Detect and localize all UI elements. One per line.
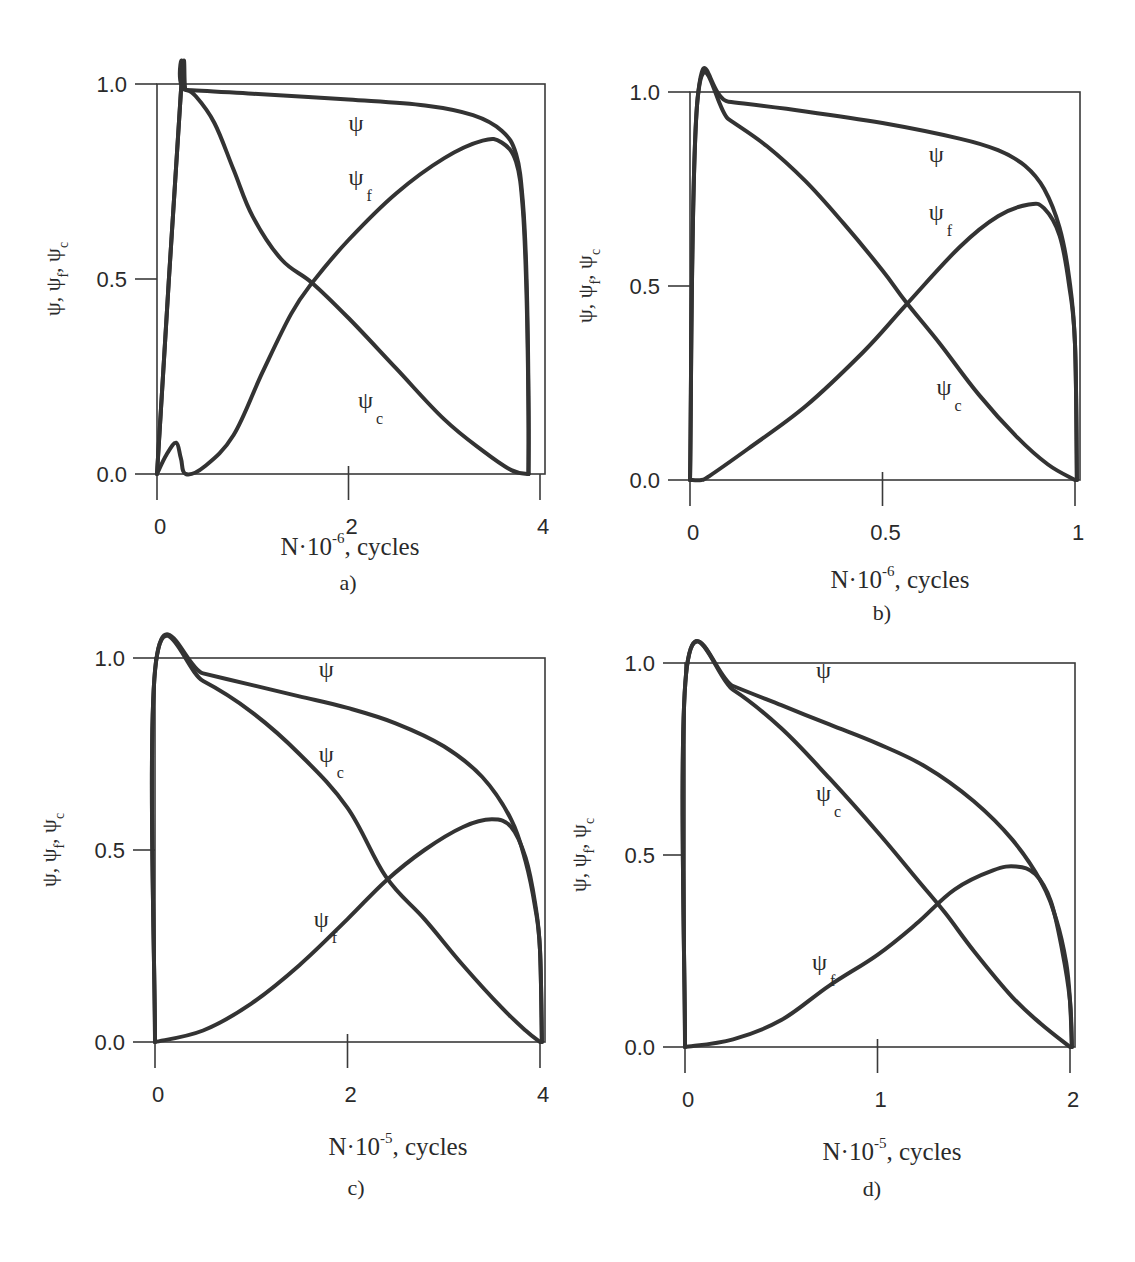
y-tick-label: 1.0 bbox=[624, 651, 655, 676]
y-axis-label: ψ, ψf, ψc bbox=[572, 249, 603, 323]
curve-label-subscript: c bbox=[337, 764, 344, 781]
chart-panel-c: 0.00.51.0024ψψcψfN·10-5, cyclesc)ψ, ψf, … bbox=[36, 634, 549, 1200]
chart-panel-d: 0.00.51.0012ψψcψfN·10-5, cyclesd)ψ, ψf, … bbox=[566, 641, 1079, 1201]
x-tick-label: 0 bbox=[687, 520, 699, 545]
curve-psi-c bbox=[152, 636, 540, 1042]
y-axis-label: ψ, ψf, ψc bbox=[566, 818, 597, 892]
x-tick-label: 4 bbox=[537, 1082, 549, 1107]
curve-psi bbox=[152, 634, 542, 1042]
panel-label: d) bbox=[863, 1176, 881, 1201]
curve-label-subscript: c bbox=[376, 410, 383, 427]
x-tick-label: 4 bbox=[537, 514, 549, 539]
y-tick-label: 0.5 bbox=[96, 267, 127, 292]
panel-label: b) bbox=[873, 600, 891, 625]
y-axis-label: ψ, ψf, ψc bbox=[40, 242, 71, 316]
curve-label-psi: ψ bbox=[319, 656, 334, 682]
y-tick-label: 0.0 bbox=[629, 468, 660, 493]
figure-canvas: 0.00.51.0024ψψfψcN·10-6, cyclesa)ψ, ψf, … bbox=[0, 0, 1135, 1262]
curve-psi-f bbox=[685, 866, 1072, 1047]
curve-label-psi-c: ψ bbox=[319, 741, 334, 767]
y-tick-label: 0.0 bbox=[624, 1035, 655, 1060]
curve-label-psi-f: ψ bbox=[349, 164, 364, 190]
panel-label: c) bbox=[347, 1175, 364, 1200]
curve-psi-c bbox=[157, 60, 529, 474]
curve-label-psi-f: ψ bbox=[812, 949, 827, 975]
x-tick-label: 1 bbox=[1072, 520, 1084, 545]
plot-frame bbox=[690, 92, 1080, 480]
y-tick-label: 0.0 bbox=[94, 1030, 125, 1055]
x-tick-label: 1 bbox=[874, 1087, 886, 1112]
plot-frame bbox=[155, 658, 545, 1042]
curve-label-psi: ψ bbox=[816, 657, 831, 683]
curve-label-psi: ψ bbox=[349, 110, 364, 136]
curve-label-psi-c: ψ bbox=[358, 387, 373, 413]
curve-label-psi: ψ bbox=[929, 141, 944, 167]
plot-frame bbox=[157, 84, 545, 474]
x-axis-label: N·10-5, cycles bbox=[823, 1135, 962, 1165]
curve-label-subscript: f bbox=[830, 972, 836, 989]
y-tick-label: 0.5 bbox=[624, 843, 655, 868]
x-tick-label: 2 bbox=[1067, 1087, 1079, 1112]
x-tick-label: 0 bbox=[152, 1082, 164, 1107]
curve-label-psi-c: ψ bbox=[936, 374, 951, 400]
y-tick-label: 1.0 bbox=[94, 646, 125, 671]
y-tick-label: 1.0 bbox=[96, 72, 127, 97]
curve-label-subscript: c bbox=[954, 397, 961, 414]
curve-label-psi-f: ψ bbox=[929, 199, 944, 225]
x-axis-label: N·10-6, cycles bbox=[831, 563, 970, 593]
y-axis-label: ψ, ψf, ψc bbox=[36, 813, 67, 887]
curve-label-subscript: c bbox=[834, 803, 841, 820]
plot-frame bbox=[685, 663, 1075, 1047]
x-tick-label: 0.5 bbox=[870, 520, 901, 545]
curve-label-subscript: f bbox=[332, 929, 338, 946]
x-tick-label: 2 bbox=[344, 1082, 356, 1107]
panel-label: a) bbox=[339, 570, 356, 595]
chart-panel-a: 0.00.51.0024ψψfψcN·10-6, cyclesa)ψ, ψf, … bbox=[40, 60, 549, 595]
y-tick-label: 0.0 bbox=[96, 462, 127, 487]
curve-psi-f bbox=[155, 819, 542, 1042]
y-tick-label: 0.5 bbox=[629, 274, 660, 299]
curve-psi-c bbox=[683, 641, 1070, 1047]
x-axis-label: N·10-6, cycles bbox=[281, 530, 420, 560]
x-tick-label: 0 bbox=[154, 514, 166, 539]
x-axis-label: N·10-5, cycles bbox=[329, 1130, 468, 1160]
curve-label-subscript: f bbox=[947, 222, 953, 239]
curve-psi-c bbox=[690, 72, 1075, 480]
y-tick-label: 1.0 bbox=[629, 80, 660, 105]
curve-psi bbox=[683, 641, 1072, 1047]
curve-label-psi-f: ψ bbox=[314, 906, 329, 932]
chart-panel-b: 0.00.51.000.51ψψfψcN·10-6, cyclesb)ψ, ψf… bbox=[572, 68, 1084, 625]
curve-label-psi-c: ψ bbox=[816, 780, 831, 806]
x-tick-label: 0 bbox=[682, 1087, 694, 1112]
y-tick-label: 0.5 bbox=[94, 838, 125, 863]
curve-psi-f bbox=[157, 139, 529, 475]
curve-label-subscript: f bbox=[367, 187, 373, 204]
